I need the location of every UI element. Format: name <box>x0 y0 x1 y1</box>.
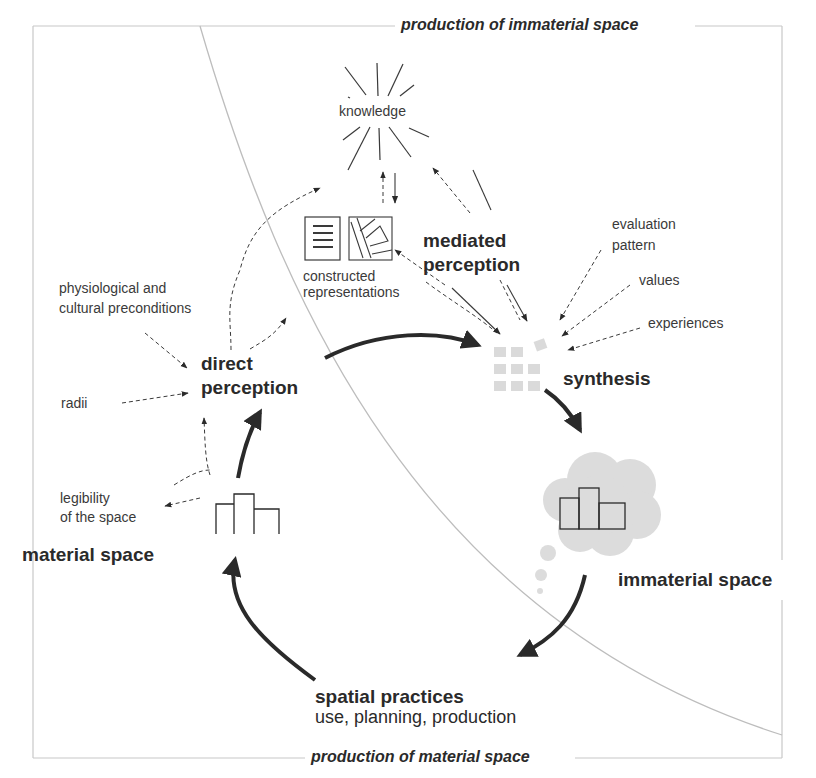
evaluation-line: evaluation <box>612 214 676 235</box>
material-space-label: material space <box>22 544 154 566</box>
evaluation-pattern-label: evaluation pattern <box>612 214 676 256</box>
legibility-label: legibility of the space <box>60 489 136 527</box>
map-icon <box>349 217 392 260</box>
representations-line: representations <box>303 284 400 300</box>
values-label: values <box>639 272 679 288</box>
text-document-icon <box>305 217 340 260</box>
of-the-space-line: of the space <box>60 508 136 527</box>
knowledge-label: knowledge <box>339 103 406 119</box>
bottom-frame-label: production of material space <box>305 748 536 766</box>
physiological-preconditions-label: physiological and cultural preconditions <box>59 279 191 318</box>
pattern-line: pattern <box>612 235 676 256</box>
mediated-perception-label: mediated perception <box>423 229 520 277</box>
constructed-line: constructed <box>303 268 400 284</box>
constructed-representations-label: constructed representations <box>303 268 400 300</box>
spatial-practices-label: spatial practices <box>315 686 464 708</box>
legibility-line: legibility <box>60 489 136 508</box>
spatial-practices-sub-label: use, planning, production <box>315 707 516 728</box>
cultural-line: cultural preconditions <box>59 299 191 319</box>
frame <box>33 26 782 758</box>
direct-perception-label: direct perception <box>201 352 298 400</box>
perception-line: perception <box>201 376 298 400</box>
physiological-line: physiological and <box>59 279 191 299</box>
radii-label: radii <box>61 395 87 411</box>
top-frame-label: production of immaterial space <box>395 16 644 34</box>
synthesis-label: synthesis <box>563 368 651 390</box>
direct-line: direct <box>201 352 298 376</box>
perception-line: perception <box>423 253 520 277</box>
experiences-label: experiences <box>648 315 724 331</box>
building-icon <box>216 494 279 534</box>
mediated-line: mediated <box>423 229 520 253</box>
immaterial-space-label: immaterial space <box>618 567 772 593</box>
diagram-canvas <box>0 0 816 778</box>
synthesis-grid-icon <box>494 338 547 391</box>
